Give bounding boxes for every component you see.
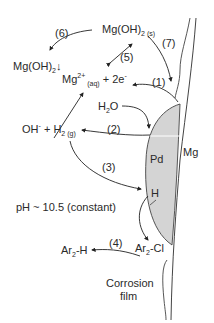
step-3-label: (3) xyxy=(102,162,115,173)
step-4-label: (4) xyxy=(109,238,122,249)
pd-label: Pd xyxy=(150,154,163,165)
step-1-label: (1) xyxy=(152,77,165,88)
mgoh2-precipitate-label: Mg(OH)2↓ xyxy=(13,61,62,72)
step-7-label: (7) xyxy=(162,38,175,49)
h2o-label: H2O xyxy=(98,101,118,112)
step-6-label: (6) xyxy=(55,28,68,39)
ar2h-label: Ar2-H xyxy=(61,245,88,256)
corrosion-film-label-1: Corrosion xyxy=(106,278,154,289)
corrosion-film-label-2: film xyxy=(120,291,137,302)
step-5-label: (5) xyxy=(120,52,133,63)
step-2-label: (2) xyxy=(107,124,120,135)
oh-h2-label: OH- + H2 (g) xyxy=(22,124,76,135)
mg-label: Mg xyxy=(183,147,198,158)
h-label: H xyxy=(151,188,159,199)
mg2-aq-label: Mg2+ (aq) + 2e- xyxy=(62,74,127,85)
ar2cl-label: Ar2-Cl xyxy=(135,243,164,254)
mgoh2-solid-label: Mg(OH)2 (s) xyxy=(102,24,155,35)
ph-condition-label: pH ~ 10.5 (constant) xyxy=(16,202,116,213)
